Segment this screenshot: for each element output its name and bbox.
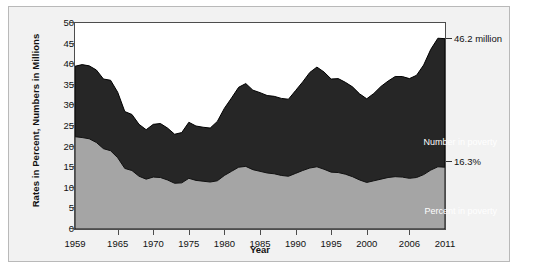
annotation-label: 46.2 million (454, 32, 502, 43)
x-tick-mark (118, 229, 119, 235)
x-tick-mark (189, 229, 190, 235)
x-tick-mark (260, 229, 261, 235)
y-axis: 05101520253035404550 (39, 22, 74, 229)
x-tick-mark (296, 229, 297, 235)
area-chart-svg (75, 23, 445, 229)
x-tick-mark (224, 229, 225, 235)
annotation-tick (446, 38, 452, 39)
x-tick-mark (367, 229, 368, 235)
series-inline-label-number: Number in poverty (423, 137, 497, 147)
chart-figure: Rates in Percent, Numbers in Millions 05… (8, 6, 510, 262)
x-axis-label: Year (74, 244, 446, 255)
series-inline-label-percent: Percent in poverty (424, 206, 497, 216)
annotation-label: 16.3% (454, 155, 481, 166)
x-tick-mark (331, 229, 332, 235)
x-tick-mark (153, 229, 154, 235)
plot-area (74, 22, 446, 230)
annotation-tick (446, 161, 452, 162)
x-tick-mark (409, 229, 410, 235)
